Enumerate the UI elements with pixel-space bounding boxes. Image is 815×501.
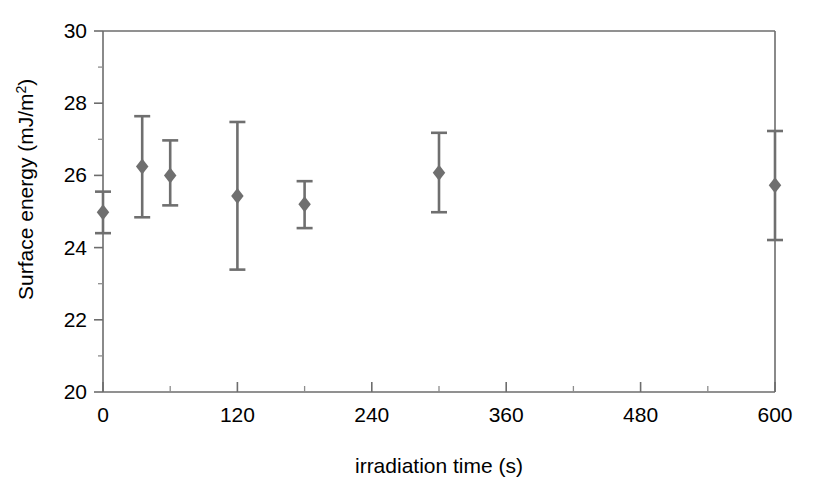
x-axis-ticks (103, 382, 775, 392)
data-point-marker (164, 167, 176, 183)
y-axis-tick-labels: 202224262830 (64, 19, 88, 403)
data-point-group (297, 181, 313, 228)
data-point-marker (298, 196, 310, 212)
data-point-marker (136, 158, 148, 174)
x-tick-label: 600 (757, 403, 792, 426)
y-tick-label: 22 (64, 308, 87, 331)
data-point-marker (231, 188, 243, 204)
data-point-marker (433, 165, 445, 181)
x-tick-label: 360 (489, 403, 524, 426)
chart-figure: Surface energy (mJ/m2) irradiation time … (0, 0, 815, 501)
y-tick-label: 30 (64, 19, 87, 42)
data-point-group (134, 116, 150, 217)
x-axis-title-text: irradiation time (s) (355, 454, 523, 477)
y-axis-title: Surface energy (mJ/m2) (13, 79, 37, 300)
data-point-marker (97, 204, 109, 220)
x-tick-label: 240 (354, 403, 389, 426)
data-point-marker (769, 177, 781, 193)
x-axis-title: irradiation time (s) (355, 454, 523, 477)
y-axis-title-text: Surface energy (mJ/m (14, 93, 37, 300)
data-point-group (162, 140, 178, 205)
data-point-group (431, 133, 447, 212)
y-tick-label: 20 (64, 380, 87, 403)
x-tick-label: 480 (623, 403, 658, 426)
y-tick-label: 24 (64, 236, 88, 259)
svg-text:Surface energy (mJ/m2): Surface energy (mJ/m2) (13, 79, 37, 300)
surface-energy-scatter-plot: Surface energy (mJ/m2) irradiation time … (0, 0, 815, 501)
y-tick-label: 26 (64, 163, 87, 186)
data-series-layer (95, 116, 783, 269)
data-series (95, 116, 783, 269)
y-tick-label: 28 (64, 91, 87, 114)
x-tick-label: 0 (97, 403, 109, 426)
x-axis-tick-labels: 0120240360480600 (97, 403, 792, 426)
data-point-group (767, 131, 783, 240)
y-axis-title-superscript: 2 (13, 85, 29, 93)
data-point-group (95, 192, 111, 234)
data-point-group (229, 122, 245, 270)
y-axis-title-suffix: ) (14, 79, 37, 86)
x-tick-label: 120 (220, 403, 255, 426)
